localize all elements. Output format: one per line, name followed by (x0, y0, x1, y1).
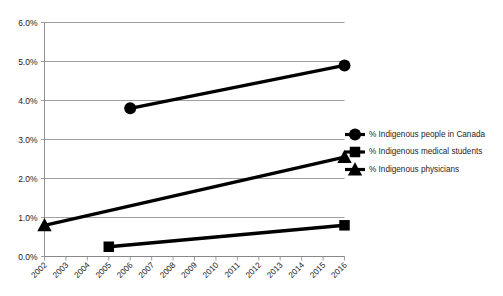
x-axis-tick-label: 2002 (30, 260, 50, 280)
x-axis-tick-label: 2010 (201, 260, 221, 280)
x-tick-marks-group (45, 257, 345, 261)
chart-canvas: 0.0%1.0%2.0%3.0%4.0%5.0%6.0% 20022003200… (0, 0, 503, 296)
series-3 (37, 150, 351, 231)
x-axis-tick-label: 2006 (115, 260, 135, 280)
x-axis-tick-label: 2004 (73, 260, 93, 280)
y-axis-tick-label: 6.0% (18, 18, 38, 28)
y-axis-tick-label: 0.0% (18, 252, 38, 262)
data-point-square (104, 242, 115, 253)
x-axis-tick-label: 2016 (330, 260, 350, 280)
y-axis-tick-label: 2.0% (18, 174, 38, 184)
series-line (45, 157, 345, 225)
y-axis-tick-label: 5.0% (18, 57, 38, 67)
series-1 (124, 59, 350, 114)
x-axis-tick-label: 2003 (51, 260, 71, 280)
x-axis-tick-label: 2011 (223, 260, 242, 279)
series-line (130, 65, 344, 108)
x-tick-labels-group: 2002200320042005200620072008200920102011… (30, 260, 350, 280)
y-axis-tick-label: 1.0% (18, 213, 38, 223)
legend-item-1[interactable]: % Indigenous people in Canada (345, 129, 486, 141)
legend-label: % Indigenous medical students (369, 147, 482, 156)
y-axis-tick-label: 4.0% (18, 96, 38, 106)
data-point-circle (339, 59, 351, 71)
data-point-circle (124, 102, 136, 114)
data-series-group (37, 59, 351, 252)
series-line (109, 225, 345, 246)
legend-label: % Indigenous people in Canada (369, 130, 486, 139)
x-axis-tick-label: 2012 (244, 260, 264, 280)
x-axis-tick-label: 2014 (287, 260, 307, 280)
y-axis-tick-label: 3.0% (18, 135, 38, 145)
x-axis-tick-label: 2008 (158, 260, 178, 280)
chart-legend: % Indigenous people in Canada% Indigenou… (345, 129, 486, 176)
x-axis-tick-label: 2005 (94, 260, 114, 280)
x-axis-tick-label: 2009 (180, 260, 200, 280)
x-axis-tick-label: 2015 (308, 260, 328, 280)
legend-marker-circle (349, 129, 361, 141)
legend-item-2[interactable]: % Indigenous medical students (345, 147, 482, 158)
data-point-square (339, 220, 350, 231)
gridlines-group (45, 23, 345, 257)
x-axis-tick-label: 2013 (265, 260, 285, 280)
y-tick-labels-group: 0.0%1.0%2.0%3.0%4.0%5.0%6.0% (18, 18, 38, 262)
legend-item-3[interactable]: % Indigenous physicians (345, 162, 459, 175)
legend-label: % Indigenous physicians (369, 165, 459, 174)
line-chart: 0.0%1.0%2.0%3.0%4.0%5.0%6.0% 20022003200… (0, 0, 503, 296)
legend-marker-square (350, 147, 361, 158)
series-2 (104, 220, 350, 252)
x-axis-tick-label: 2007 (137, 260, 157, 280)
